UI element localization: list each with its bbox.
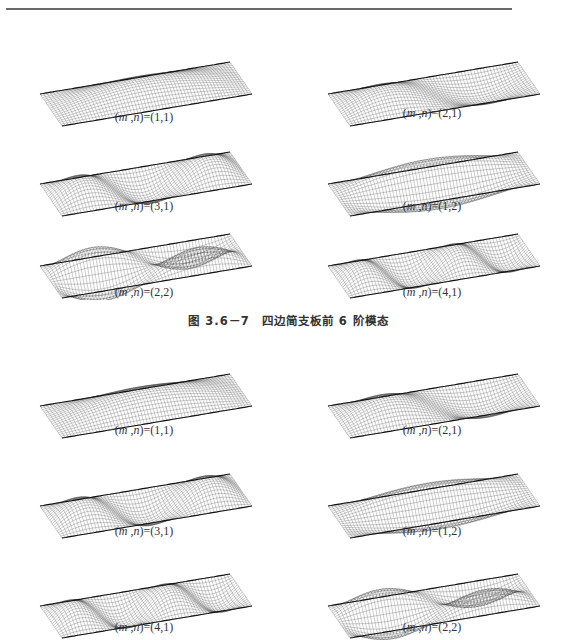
mode-label: (m ,n)=(4,1) — [0, 620, 288, 635]
mode-label: (m ,n)=(1,2) — [288, 524, 576, 539]
mode-label: (m ,n)=(2,2) — [288, 620, 576, 635]
mode-label: (m ,n)=(1,1) — [0, 423, 288, 438]
header-rule — [6, 8, 512, 10]
mode-label: (m ,n)=(3,1) — [0, 524, 288, 539]
mode-label: (m ,n)=(2,2) — [0, 285, 288, 300]
mode-label: (m ,n)=(4,1) — [288, 285, 576, 300]
figure-caption: 图 3.6－7 四边简支板前 6 阶模态 — [0, 312, 577, 328]
mode-label: (m ,n)=(2,1) — [288, 423, 576, 438]
